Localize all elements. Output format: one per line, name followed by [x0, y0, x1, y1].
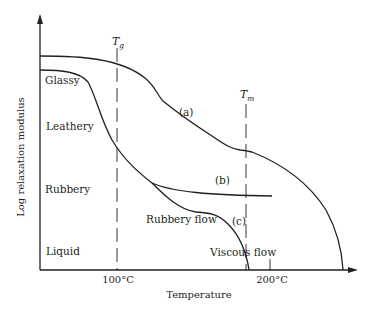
x-axis-title: Temperature	[166, 289, 232, 300]
y-axis-title: Log relaxation modulus	[15, 97, 26, 217]
tg-label: Tg	[112, 35, 124, 50]
tm-label: Tm	[240, 88, 254, 103]
region-rubbery-flow: Rubbery flow	[146, 213, 217, 225]
curve-b-label: (b)	[215, 174, 230, 186]
curve-b	[152, 183, 272, 196]
curve-a	[40, 56, 343, 270]
region-glassy: Glassy	[45, 74, 80, 86]
region-viscous-flow: Viscous flow	[209, 246, 276, 258]
y-axis-arrow-icon	[37, 14, 43, 24]
tick-label-200: 200°C	[256, 274, 288, 285]
curve-a-label: (a)	[179, 106, 193, 118]
curve-c-label: (c)	[232, 215, 246, 227]
region-liquid: Liquid	[46, 245, 80, 257]
x-axis-arrow-icon	[348, 267, 358, 273]
region-leathery: Leathery	[46, 120, 94, 132]
axes	[40, 22, 350, 270]
region-rubbery: Rubbery	[45, 183, 90, 195]
tick-label-100: 100°C	[102, 274, 134, 285]
modulus-temperature-diagram: Tg Tm Glassy Leathery Rubbery Liquid Rub…	[0, 0, 370, 312]
